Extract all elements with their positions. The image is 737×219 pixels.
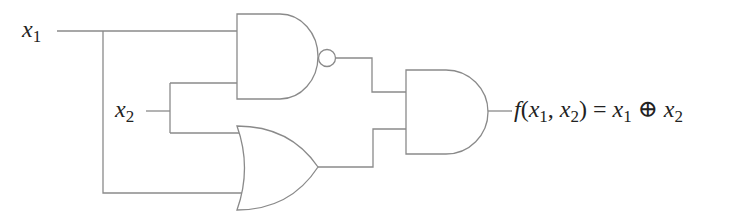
or-gate	[237, 126, 318, 210]
nand-body	[237, 14, 318, 99]
nand-bubble	[319, 50, 336, 67]
wire-nand-to-and	[336, 58, 406, 92]
input-label-x1: x1	[21, 16, 41, 46]
and-body	[406, 70, 488, 154]
xor-operator: ⊕	[632, 96, 664, 122]
or-body	[237, 126, 318, 210]
wire-or-to-and	[318, 129, 406, 167]
input-label-x2: x2	[114, 96, 134, 126]
and-gate	[406, 70, 488, 154]
logic-circuit-diagram: x1 x2 f(x1, x2) = x1 ⊕ x2	[0, 0, 737, 219]
output-expression: f(x1, x2) = x1 ⊕ x2	[514, 96, 683, 126]
nand-gate	[237, 14, 336, 99]
